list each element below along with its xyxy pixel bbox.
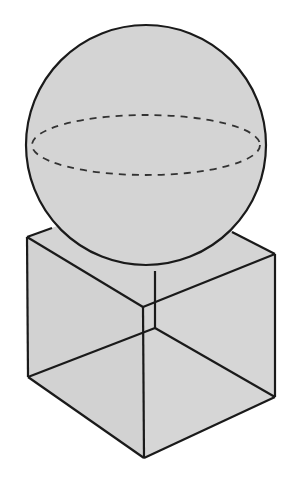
edge-left-vertical	[27, 237, 28, 377]
sphere-body	[26, 25, 266, 265]
diagram-canvas	[0, 0, 295, 477]
sphere	[26, 25, 266, 265]
sphere-on-cube-figure	[0, 0, 295, 477]
edge-front-vertical	[143, 307, 144, 458]
